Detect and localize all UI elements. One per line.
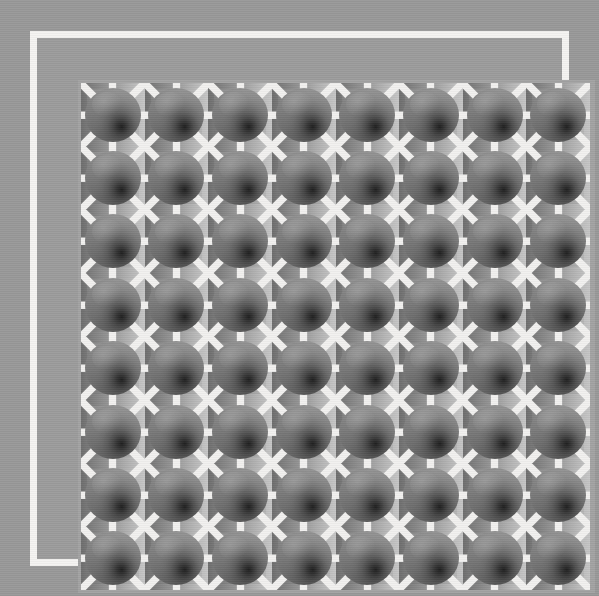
- lattice-cell: [463, 400, 527, 463]
- lattice-cell: [272, 463, 336, 526]
- lattice-cell: [208, 400, 272, 463]
- lattice-cell: [145, 146, 209, 209]
- lattice-cell: [463, 210, 527, 273]
- lattice-cell: [399, 146, 463, 209]
- shaded-sphere: [85, 278, 141, 332]
- shaded-sphere: [467, 214, 523, 268]
- lattice-cell: [399, 83, 463, 146]
- shaded-sphere: [403, 151, 459, 205]
- lattice-cell: [208, 273, 272, 336]
- shaded-sphere: [467, 531, 523, 585]
- outer-white-frame: [30, 31, 569, 566]
- shaded-sphere: [85, 405, 141, 459]
- shaded-sphere: [276, 214, 332, 268]
- shaded-sphere: [212, 531, 268, 585]
- shaded-sphere: [85, 468, 141, 522]
- shaded-sphere: [148, 88, 204, 142]
- lattice-cell: [463, 463, 527, 526]
- shaded-sphere: [403, 214, 459, 268]
- lattice-cell: [272, 400, 336, 463]
- lattice-cell: [336, 210, 400, 273]
- shaded-sphere: [530, 278, 586, 332]
- lattice-cell: [145, 273, 209, 336]
- shaded-sphere: [85, 151, 141, 205]
- lattice-cell: [526, 210, 590, 273]
- lattice-cell: [526, 146, 590, 209]
- shaded-sphere: [276, 88, 332, 142]
- lattice-cell: [463, 83, 527, 146]
- shaded-sphere: [530, 405, 586, 459]
- shaded-sphere: [276, 151, 332, 205]
- shaded-sphere: [467, 468, 523, 522]
- shaded-sphere: [276, 531, 332, 585]
- lattice-cell: [272, 527, 336, 590]
- shaded-sphere: [467, 151, 523, 205]
- lattice-cell: [272, 337, 336, 400]
- shaded-sphere: [148, 405, 204, 459]
- shaded-sphere: [530, 88, 586, 142]
- shaded-sphere: [276, 341, 332, 395]
- lattice-cell: [272, 83, 336, 146]
- lattice-cell: [81, 83, 145, 146]
- shaded-sphere: [212, 278, 268, 332]
- lattice-cell: [336, 83, 400, 146]
- lattice-cell: [81, 400, 145, 463]
- shaded-sphere: [467, 405, 523, 459]
- shaded-sphere: [403, 405, 459, 459]
- lattice-cell: [399, 273, 463, 336]
- shaded-sphere: [276, 468, 332, 522]
- lattice-cell: [463, 527, 527, 590]
- lattice-cell: [272, 273, 336, 336]
- lattice-cell: [336, 400, 400, 463]
- lattice-cell: [208, 210, 272, 273]
- lattice-cell: [463, 337, 527, 400]
- shaded-sphere: [212, 151, 268, 205]
- shaded-sphere: [148, 468, 204, 522]
- lattice-cell: [272, 210, 336, 273]
- lattice-cell: [526, 273, 590, 336]
- lattice-cell: [81, 273, 145, 336]
- shaded-sphere: [85, 531, 141, 585]
- lattice-cell: [145, 83, 209, 146]
- lattice-cell: [208, 337, 272, 400]
- shaded-sphere: [467, 341, 523, 395]
- lattice-cell: [272, 146, 336, 209]
- shaded-sphere: [212, 341, 268, 395]
- lattice-cell: [399, 210, 463, 273]
- shaded-sphere: [339, 468, 395, 522]
- shaded-sphere: [339, 405, 395, 459]
- lattice-cell: [463, 146, 527, 209]
- lattice-cell: [526, 463, 590, 526]
- shaded-sphere: [403, 341, 459, 395]
- shaded-sphere: [85, 214, 141, 268]
- lattice-cell: [399, 463, 463, 526]
- shaded-sphere: [276, 405, 332, 459]
- shaded-sphere: [212, 468, 268, 522]
- shaded-sphere: [212, 88, 268, 142]
- shaded-sphere: [467, 88, 523, 142]
- lattice-cell: [336, 146, 400, 209]
- shaded-sphere: [339, 151, 395, 205]
- lattice-cell: [81, 463, 145, 526]
- lattice-cell: [145, 337, 209, 400]
- shaded-sphere: [148, 278, 204, 332]
- shaded-sphere: [403, 531, 459, 585]
- lattice-cell: [336, 273, 400, 336]
- lattice-cell: [145, 463, 209, 526]
- lattice-cell: [526, 337, 590, 400]
- lattice-cell: [336, 463, 400, 526]
- lattice-cell: [145, 400, 209, 463]
- shaded-sphere: [403, 278, 459, 332]
- shaded-sphere: [339, 88, 395, 142]
- image-canvas: An eight by eight grid of grey shaded sp…: [0, 0, 599, 596]
- lattice-cell: [526, 527, 590, 590]
- lattice-cell: [336, 337, 400, 400]
- shaded-sphere: [530, 151, 586, 205]
- lattice-cell: [145, 527, 209, 590]
- lattice-cell: [208, 527, 272, 590]
- lattice-cell: [208, 83, 272, 146]
- lattice-cell: [336, 527, 400, 590]
- shaded-sphere: [403, 468, 459, 522]
- lattice-cell: [81, 527, 145, 590]
- shaded-sphere: [85, 88, 141, 142]
